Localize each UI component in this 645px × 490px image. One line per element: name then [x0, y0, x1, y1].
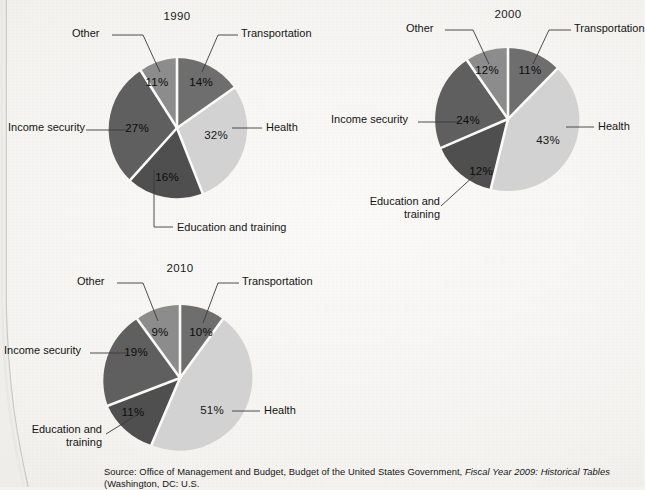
value-income-security-2010: 19%: [124, 346, 148, 358]
source-text-1: Office of Management and Budget, Budget …: [137, 466, 465, 477]
label-income-security-2000: Income security: [331, 113, 408, 126]
pie-chart-1990: 1990: [0, 0, 320, 250]
label-other-2010: Other: [77, 275, 105, 288]
value-other-2000: 12%: [475, 64, 499, 76]
pie-title-1990: 1990: [117, 10, 237, 22]
pie-chart-2010: 2010: [0, 255, 340, 470]
value-other-2010: 9%: [151, 326, 168, 338]
label-health-1990: Health: [266, 121, 298, 134]
value-income-security-2000: 24%: [456, 114, 480, 126]
pie-title-2000: 2000: [448, 8, 568, 20]
value-education-2010: 11%: [122, 406, 145, 418]
pie-title-2010: 2010: [120, 262, 240, 274]
label-other-1990: Other: [72, 27, 100, 40]
source-italic-title: Fiscal Year 2009: Historical Tables: [465, 466, 610, 477]
label-education-2010: Education and training: [28, 423, 102, 448]
label-health-2010: Health: [264, 404, 296, 417]
label-transportation-1990: Transportation: [241, 27, 312, 40]
label-other-2000: Other: [406, 22, 434, 35]
label-education-2000: Education and training: [366, 195, 440, 220]
source-text-2: (Washington, DC: U.S.: [104, 478, 200, 489]
value-transportation-1990: 14%: [189, 76, 213, 88]
value-transportation-2000: 11%: [519, 64, 542, 76]
value-transportation-2010: 10%: [189, 326, 213, 338]
label-transportation-2000: Transportation: [574, 22, 645, 35]
value-other-1990: 11%: [146, 76, 169, 88]
label-income-security-1990: Income security: [8, 121, 85, 134]
label-transportation-2010: Transportation: [242, 275, 313, 288]
label-health-2000: Health: [598, 120, 630, 133]
value-education-2000: 12%: [469, 165, 493, 177]
value-health-2000: 43%: [536, 134, 560, 146]
figure-source-note: Source: Office of Management and Budget,…: [104, 466, 644, 490]
value-education-1990: 16%: [155, 171, 179, 183]
label-education-1990: Education and training: [177, 221, 286, 234]
value-health-2010: 51%: [200, 404, 224, 416]
source-prefix: Source:: [104, 466, 137, 477]
pie-chart-2000: 2000: [324, 0, 644, 250]
value-income-security-1990: 27%: [125, 122, 149, 134]
label-income-security-2010: Income security: [4, 344, 81, 357]
value-health-1990: 32%: [204, 129, 228, 141]
